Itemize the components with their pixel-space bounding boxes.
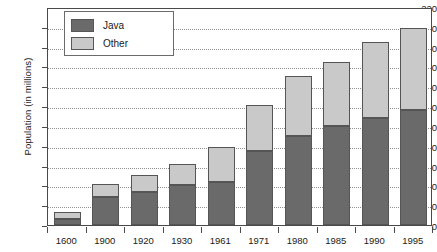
bar-segment-other	[285, 76, 312, 135]
bar-segment-java	[92, 197, 119, 225]
x-tick-label: 1995	[402, 235, 423, 246]
bar-group	[208, 147, 235, 225]
y-axis-title: Population (in millions)	[22, 17, 33, 197]
stacked-bar-chart: Population (in millions) 020406080100120…	[0, 0, 437, 252]
x-tick-mark	[394, 227, 395, 233]
bar-segment-java	[131, 192, 158, 225]
bar-segment-other	[131, 175, 158, 192]
x-tick-mark	[278, 227, 279, 233]
other-swatch	[71, 37, 94, 50]
bar-group	[246, 105, 273, 225]
bar-group	[323, 62, 350, 226]
x-tick-label: 1961	[210, 235, 231, 246]
x-tick-label: 1980	[287, 235, 308, 246]
bar-group	[400, 28, 427, 225]
x-tick-label: 1985	[325, 235, 346, 246]
bar-group	[285, 76, 312, 225]
x-tick-label: 1990	[364, 235, 385, 246]
bar-segment-other	[92, 184, 119, 197]
bar-segment-other	[362, 42, 389, 118]
legend-item: Other	[71, 34, 173, 52]
bar-segment-other	[169, 164, 196, 186]
chart-legend: JavaOther	[64, 11, 174, 56]
x-tick-mark	[240, 227, 241, 233]
bar-segment-java	[285, 136, 312, 225]
legend-label: Other	[103, 38, 128, 49]
bar-segment-other	[246, 105, 273, 151]
bar-segment-java	[54, 219, 81, 225]
bar-segment-java	[323, 126, 350, 225]
x-tick-mark	[317, 227, 318, 233]
java-swatch	[71, 19, 94, 32]
legend-label: Java	[103, 20, 124, 31]
bar-segment-java	[362, 118, 389, 225]
bar-segment-java	[208, 182, 235, 225]
bar-segment-other	[208, 147, 235, 183]
x-tick-mark	[355, 227, 356, 233]
x-tick-mark	[201, 227, 202, 233]
x-tick-label: 1930	[171, 235, 192, 246]
x-tick-mark	[163, 227, 164, 233]
bar-group	[92, 184, 119, 225]
bar-group	[54, 212, 81, 225]
x-tick-mark	[432, 227, 433, 233]
x-tick-label: 1920	[133, 235, 154, 246]
x-tick-label: 1600	[56, 235, 77, 246]
bar-segment-other	[54, 212, 81, 219]
bar-segment-java	[246, 151, 273, 225]
bar-segment-other	[323, 62, 350, 126]
bar-group	[169, 164, 196, 225]
bar-segment-java	[169, 185, 196, 225]
x-tick-label: 1971	[248, 235, 269, 246]
legend-item: Java	[71, 16, 173, 34]
x-tick-mark	[124, 227, 125, 233]
x-tick-mark	[47, 227, 48, 233]
bar-segment-other	[400, 28, 427, 110]
x-tick-mark	[86, 227, 87, 233]
bar-group	[131, 175, 158, 225]
bar-segment-java	[400, 110, 427, 225]
bar-group	[362, 42, 389, 225]
x-tick-label: 1900	[94, 235, 115, 246]
